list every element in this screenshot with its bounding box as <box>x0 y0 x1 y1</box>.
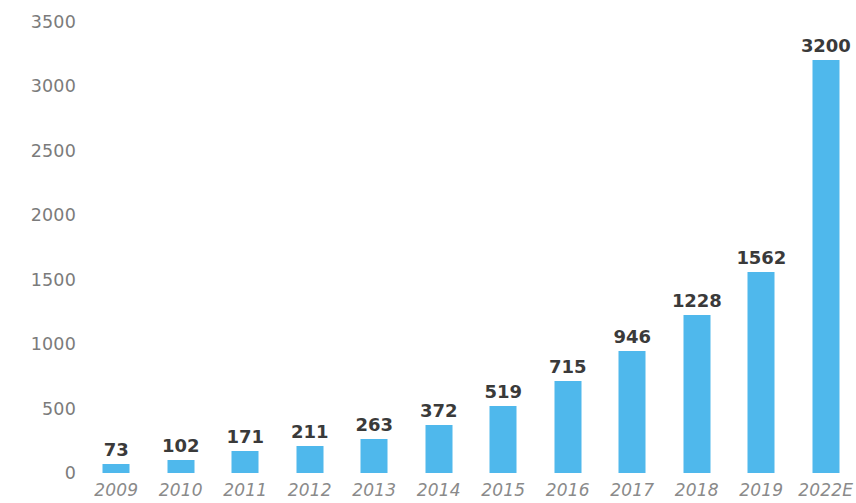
bar-chart: 0500100015002000250030003500 73200910220… <box>0 0 856 503</box>
bar[interactable] <box>619 351 646 473</box>
bar-group: 32002022E <box>794 0 856 503</box>
x-axis-tick-label: 2011 <box>223 481 267 500</box>
bar-group: 9462017 <box>600 0 665 503</box>
y-axis-tick-label: 3500 <box>0 13 76 31</box>
x-axis-tick-label: 2013 <box>352 481 396 500</box>
bar-value-label: 171 <box>227 427 264 447</box>
bar[interactable] <box>232 451 259 473</box>
bar[interactable] <box>554 381 581 473</box>
y-axis-tick-label: 1500 <box>0 271 76 289</box>
x-axis-tick-label: 2018 <box>675 481 719 500</box>
bar-group: 5192015 <box>471 0 536 503</box>
bar-group: 15622019 <box>729 0 794 503</box>
bar[interactable] <box>490 406 517 473</box>
bar-group: 732009 <box>84 0 149 503</box>
bar-value-label: 946 <box>614 327 651 347</box>
bar-value-label: 519 <box>485 382 522 402</box>
bar-value-label: 263 <box>356 415 393 435</box>
x-axis-tick-label: 2019 <box>739 481 783 500</box>
x-axis-tick-label: 2009 <box>94 481 138 500</box>
bar-value-label: 3200 <box>801 36 851 56</box>
x-axis-tick-label: 2017 <box>610 481 654 500</box>
x-axis-tick-label: 2010 <box>159 481 203 500</box>
bar-value-label: 73 <box>104 440 129 460</box>
bar-value-label: 102 <box>162 436 199 456</box>
bar[interactable] <box>361 439 388 473</box>
bar[interactable] <box>425 425 452 473</box>
y-axis-tick-label: 3000 <box>0 77 76 95</box>
y-axis-tick-label: 500 <box>0 400 76 418</box>
y-axis-tick-label: 2500 <box>0 142 76 160</box>
bar-value-label: 1562 <box>736 248 786 268</box>
bar-group: 7152016 <box>536 0 601 503</box>
bar-value-label: 1228 <box>672 291 722 311</box>
bar[interactable] <box>296 446 323 473</box>
bar[interactable] <box>683 315 710 473</box>
y-axis-tick-label: 2000 <box>0 206 76 224</box>
y-axis-tick-label: 1000 <box>0 335 76 353</box>
x-axis-tick-label: 2016 <box>546 481 590 500</box>
bar-group: 2632013 <box>342 0 407 503</box>
y-axis: 0500100015002000250030003500 <box>0 0 76 503</box>
bar-value-label: 715 <box>549 357 586 377</box>
bar-group: 2112012 <box>278 0 343 503</box>
bar[interactable] <box>167 460 194 473</box>
x-axis-tick-label: 2012 <box>288 481 332 500</box>
bar-value-label: 372 <box>420 401 457 421</box>
bar-group: 12282018 <box>665 0 730 503</box>
bar[interactable] <box>812 60 839 473</box>
plot-area: 7320091022010171201121120122632013372201… <box>76 0 856 503</box>
x-axis-tick-label: 2015 <box>481 481 525 500</box>
bar-group: 3722014 <box>407 0 472 503</box>
bar[interactable] <box>748 272 775 473</box>
bar-group: 1712011 <box>213 0 278 503</box>
x-axis-tick-label: 2022E <box>798 481 853 500</box>
bar-group: 1022010 <box>149 0 214 503</box>
y-axis-tick-label: 0 <box>0 464 76 482</box>
bar[interactable] <box>103 464 130 473</box>
bar-value-label: 211 <box>291 422 328 442</box>
x-axis-tick-label: 2014 <box>417 481 461 500</box>
